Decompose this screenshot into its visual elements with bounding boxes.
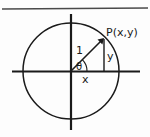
y-leg-label: y — [107, 50, 114, 63]
angle-arc — [82, 60, 87, 71]
top-rule — [2, 8, 148, 9]
x-leg-label: x — [82, 73, 89, 86]
angle-theta-label: θ — [76, 61, 82, 72]
unit-circle-svg: P(x,y) 1 θ x y — [0, 0, 150, 137]
radius-length-label: 1 — [76, 44, 83, 57]
point-label: P(x,y) — [106, 26, 138, 39]
unit-circle-figure: P(x,y) 1 θ x y — [0, 0, 150, 137]
